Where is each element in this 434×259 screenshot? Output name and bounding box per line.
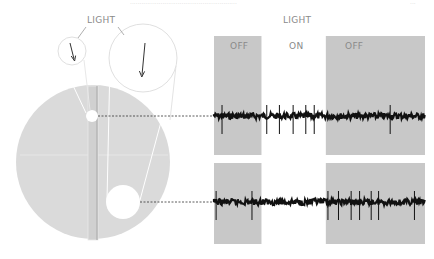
page-header-fragment: ........................................… [130,0,237,5]
page-number-fragment: ... [410,0,416,5]
figure-canvas: ........................................… [0,0,434,259]
light-condition-panels [214,36,425,244]
condition-label-off-1: OFF [230,41,248,51]
large-light-spot [106,185,140,219]
light-off-panel-1-2 [326,36,425,155]
light-label-left: LIGHT [87,15,116,25]
condition-label-on: ON [289,41,303,51]
light-label-right: LIGHT [283,15,312,25]
retina-diagram: LIGHT [16,15,214,240]
condition-label-off-2: OFF [345,41,363,51]
leader-line [78,27,86,38]
light-off-panel-1-1 [214,36,261,155]
small-light-spot [86,110,98,122]
large-spot-magnified [109,24,177,92]
